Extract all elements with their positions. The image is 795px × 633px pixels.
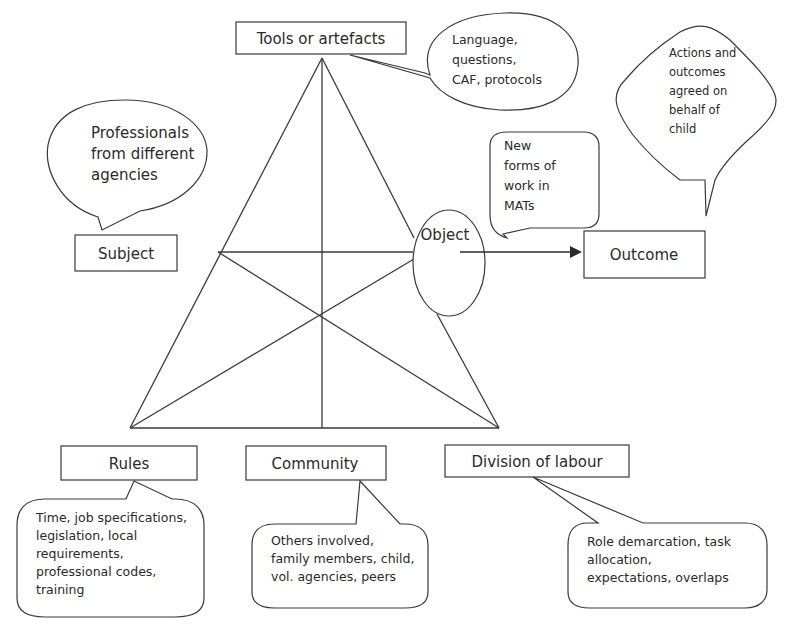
outcome-label: Outcome bbox=[610, 246, 678, 264]
triangle-right-edge-lower bbox=[437, 314, 499, 428]
object-callout: New forms of work in MATs bbox=[490, 132, 599, 238]
tools-callout-line-2: questions, bbox=[452, 52, 517, 67]
object-node: Object bbox=[413, 210, 485, 316]
object-callout-line-4: MATs bbox=[504, 198, 534, 213]
rules-callout-line-3: requirements, bbox=[36, 546, 124, 561]
outcome-callout-line-1: Actions and bbox=[669, 46, 736, 60]
object-label: Object bbox=[421, 226, 470, 244]
outcome-callout-line-3: agreed on bbox=[669, 84, 727, 98]
object-callout-line-1: New bbox=[504, 138, 531, 153]
rules-callout-line-1: Time, job specifications, bbox=[35, 510, 187, 525]
rules-label: Rules bbox=[109, 455, 150, 473]
subject-callout-line-1: Professionals bbox=[91, 124, 189, 142]
diagonal-rules-object bbox=[130, 259, 414, 428]
community-label: Community bbox=[272, 455, 359, 473]
subject-callout-bubble bbox=[47, 100, 207, 230]
rules-node: Rules bbox=[61, 446, 197, 480]
subject-callout-line-2: from different bbox=[91, 145, 195, 163]
tools-callout-line-3: CAF, protocols bbox=[452, 72, 542, 87]
activity-system-diagram: Tools or artefacts Language, questions, … bbox=[0, 0, 795, 633]
subject-callout: Professionals from different agencies bbox=[47, 100, 207, 230]
tools-node: Tools or artefacts bbox=[236, 22, 406, 54]
subject-callout-line-3: agencies bbox=[91, 166, 158, 184]
object-callout-line-3: work in bbox=[504, 178, 550, 193]
rules-callout-line-4: professional codes, bbox=[36, 564, 156, 579]
division-label: Division of labour bbox=[471, 453, 603, 471]
outcome-callout-line-5: child bbox=[669, 122, 696, 136]
rules-callout-line-2: legislation, local bbox=[36, 528, 137, 543]
community-callout-line-1: Others involved, bbox=[271, 533, 374, 548]
community-node: Community bbox=[246, 446, 386, 480]
division-callout-line-3: expectations, overlaps bbox=[587, 570, 729, 585]
subject-label: Subject bbox=[98, 245, 154, 263]
outcome-callout: Actions and outcomes agreed on behalf of… bbox=[616, 26, 776, 216]
community-callout-line-3: vol. agencies, peers bbox=[271, 569, 396, 584]
tools-callout-line-1: Language, bbox=[452, 32, 518, 47]
division-node: Division of labour bbox=[445, 445, 629, 477]
arrow-head-icon bbox=[570, 246, 582, 258]
outcome-node: Outcome bbox=[584, 231, 705, 278]
triangle-right-edge-upper bbox=[322, 58, 414, 238]
outcome-callout-line-2: outcomes bbox=[669, 65, 725, 79]
tools-label: Tools or artefacts bbox=[256, 30, 386, 48]
community-callout: Others involved, family members, child, … bbox=[252, 481, 428, 608]
object-callout-line-2: forms of bbox=[504, 158, 556, 173]
community-callout-line-2: family members, child, bbox=[271, 551, 414, 566]
outcome-callout-line-4: behalf of bbox=[669, 103, 721, 117]
division-callout-line-1: Role demarcation, task bbox=[587, 534, 732, 549]
division-callout-line-2: allocation, bbox=[587, 552, 652, 567]
division-callout: Role demarcation, task allocation, expec… bbox=[533, 477, 767, 608]
subject-node: Subject bbox=[75, 235, 177, 271]
rules-callout-line-5: training bbox=[36, 582, 84, 597]
rules-callout: Time, job specifications, legislation, l… bbox=[17, 481, 204, 617]
